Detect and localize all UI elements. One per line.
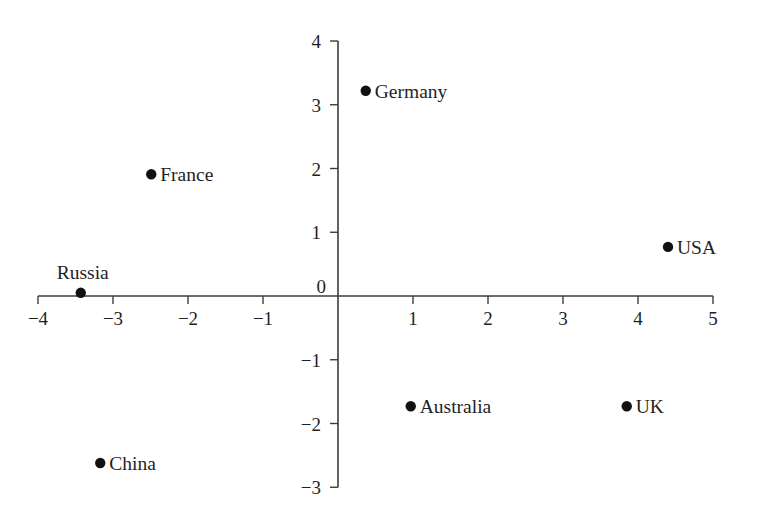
point-marker bbox=[76, 288, 86, 298]
x-axis-tick-label: −4 bbox=[28, 308, 49, 329]
point-label: USA bbox=[677, 237, 716, 258]
x-axis-tick-label: −3 bbox=[103, 308, 123, 329]
x-axis-tick-label: 2 bbox=[483, 308, 493, 329]
y-axis-tick-label: 1 bbox=[312, 222, 322, 243]
data-point: Australia bbox=[406, 396, 492, 417]
point-marker bbox=[663, 242, 673, 252]
x-axis-tick-label: −1 bbox=[253, 308, 273, 329]
data-point: UK bbox=[622, 396, 664, 417]
x-axis-tick-label: 1 bbox=[408, 308, 418, 329]
point-label: Russia bbox=[57, 262, 109, 283]
point-marker bbox=[146, 169, 156, 179]
scatter-chart: −4−3−2−1012345−3−2−11234GermanyFranceUSA… bbox=[0, 0, 759, 518]
x-axis-tick-label: 5 bbox=[708, 308, 718, 329]
data-point: Russia bbox=[57, 262, 109, 298]
y-axis-tick-label: 2 bbox=[312, 159, 322, 180]
data-point: Germany bbox=[361, 81, 448, 102]
point-label: China bbox=[109, 453, 156, 474]
point-label: France bbox=[160, 164, 213, 185]
x-axis-tick-label: 4 bbox=[633, 308, 643, 329]
point-label: Germany bbox=[375, 81, 448, 102]
y-axis-tick-label: −2 bbox=[301, 414, 321, 435]
point-marker bbox=[95, 458, 105, 468]
y-axis-tick-label: 4 bbox=[312, 31, 322, 52]
point-marker bbox=[406, 401, 416, 411]
x-axis-tick-label: 3 bbox=[558, 308, 568, 329]
y-axis-tick-label: 3 bbox=[312, 95, 322, 116]
plot-area: −4−3−2−1012345−3−2−11234GermanyFranceUSA… bbox=[0, 0, 759, 518]
point-label: Australia bbox=[420, 396, 492, 417]
data-point: USA bbox=[663, 237, 716, 258]
y-axis-tick-label: −3 bbox=[301, 477, 321, 498]
x-axis-tick-label: 0 bbox=[317, 276, 327, 297]
point-marker bbox=[361, 86, 371, 96]
point-marker bbox=[622, 401, 632, 411]
x-axis-tick-label: −2 bbox=[178, 308, 198, 329]
data-point: France bbox=[146, 164, 213, 185]
y-axis-tick-label: −1 bbox=[301, 350, 321, 371]
data-point: China bbox=[95, 453, 156, 474]
point-label: UK bbox=[636, 396, 664, 417]
